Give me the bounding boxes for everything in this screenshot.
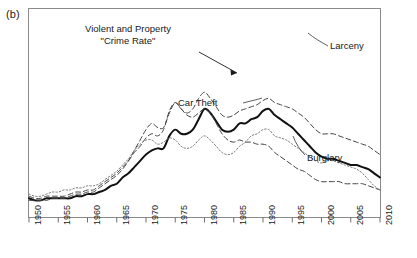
x-tick-label: 2010 <box>384 205 394 225</box>
x-tick-label: 2000 <box>326 205 336 225</box>
annotation-burglary: Burglary <box>307 152 342 164</box>
x-tick-label: 1985 <box>238 205 248 225</box>
x-tick-label: 1950 <box>33 205 43 225</box>
x-tick-label: 1995 <box>296 205 306 225</box>
x-tick-label: 2005 <box>355 205 365 225</box>
x-tick-label: 1960 <box>92 205 102 225</box>
x-tick-label: 1965 <box>121 205 131 225</box>
x-tick-label: 1955 <box>62 205 72 225</box>
x-tick-label: 1990 <box>267 205 277 225</box>
x-tick-label: 1980 <box>209 205 219 225</box>
x-tick-label: 1970 <box>150 205 160 225</box>
x-tick-label: 1975 <box>179 205 189 225</box>
annotation-larceny: Larceny <box>330 40 364 52</box>
annotation-car-theft: Car Theft <box>178 97 217 109</box>
annotation-crime-rate: Violent and Property "Crime Rate" <box>63 23 193 46</box>
figure-panel-b: (b) Violent and Property "Crime Rate" La… <box>0 0 417 258</box>
